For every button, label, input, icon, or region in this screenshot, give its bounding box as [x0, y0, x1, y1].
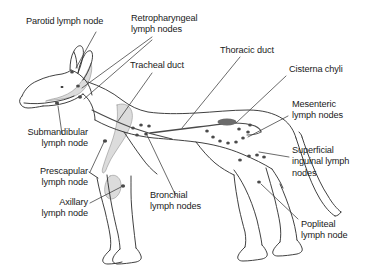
label-superficial-inguinal-lymph-nodes: Superficial inguinal lymph nodes — [292, 145, 349, 179]
node-retropharyngeal-2 — [78, 95, 82, 98]
label-submandibular-lymph-node: Submandibular lymph node — [0, 127, 88, 150]
lymphatic-diagram-figure: Parotid lymph node Retropharyngeal lymph… — [0, 0, 371, 273]
dog-eye — [61, 86, 64, 88]
label-tracheal-duct: Tracheal duct — [130, 60, 184, 71]
label-cisterna-chyli: Cisterna chyli — [289, 64, 343, 75]
label-popliteal-lymph-node: Popliteal lymph node — [301, 219, 348, 242]
label-prescapular-lymph-node: Prescapular lymph node — [8, 166, 88, 189]
node-submandibular — [55, 102, 59, 105]
node-popliteal — [257, 180, 261, 183]
label-axillary-lymph-node: Axillary lymph node — [8, 197, 88, 220]
node-parotid — [70, 70, 74, 73]
label-mesenteric-lymph-nodes: Mesenteric lymph nodes — [292, 99, 343, 122]
node-retropharyngeal-1 — [76, 84, 80, 87]
label-bronchial-lymph-nodes: Bronchial lymph nodes — [150, 190, 201, 213]
label-parotid-lymph-node: Parotid lymph node — [26, 16, 103, 27]
label-thoracic-duct: Thoracic duct — [220, 45, 274, 56]
node-axillary — [121, 184, 125, 187]
structure-cisterna-chyli — [218, 119, 237, 126]
label-retropharyngeal-lymph-nodes: Retropharyngeal lymph nodes — [131, 13, 197, 36]
